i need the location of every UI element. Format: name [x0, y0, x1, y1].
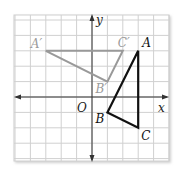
- x-axis-label: x: [158, 101, 165, 115]
- origin-label: O: [77, 101, 87, 115]
- vertex-label-a: A: [141, 36, 151, 50]
- vertex-label-b-prime: B′: [94, 82, 107, 96]
- coordinate-plane: yxOABCA′B′C′: [0, 0, 183, 171]
- y-axis-label: y: [95, 13, 103, 27]
- vertex-label-c-prime: C′: [118, 36, 130, 50]
- vertex-label-a-prime: A′: [30, 37, 43, 51]
- vertex-label-c: C: [141, 129, 150, 143]
- vertex-label-b: B: [94, 112, 104, 126]
